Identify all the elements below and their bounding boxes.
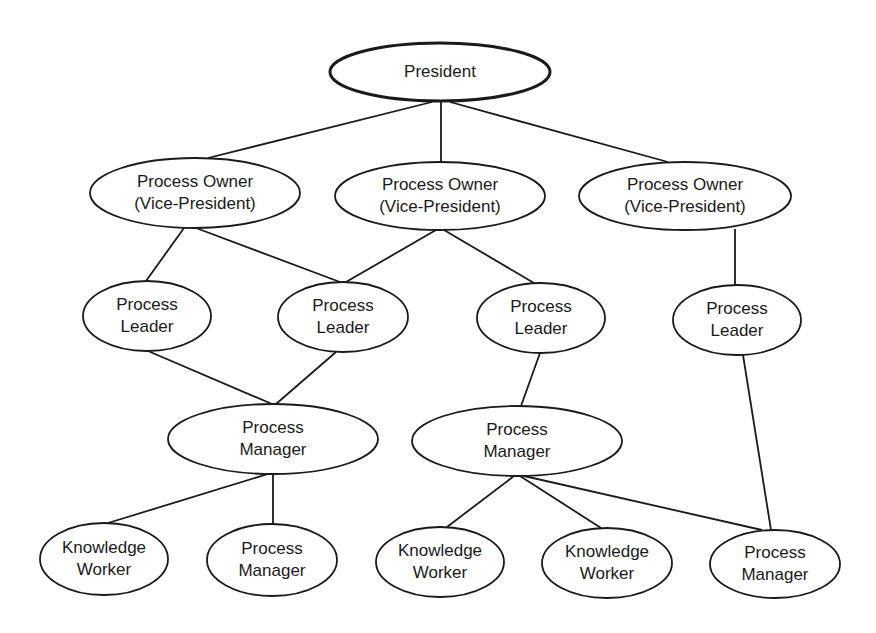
node-po1: Process Owner(Vice-President) [90, 158, 300, 228]
node-label: Process [744, 543, 805, 562]
node-label: Manager [239, 440, 306, 459]
role-nodes: PresidentProcess Owner(Vice-President)Pr… [40, 43, 840, 598]
node-label: Process [486, 420, 547, 439]
connector-pl1-to-pm1 [148, 351, 272, 404]
connector-po1-to-pl2 [196, 228, 340, 282]
node-kw2: KnowledgeWorker [376, 527, 504, 597]
node-label: Process [242, 418, 303, 437]
node-label: Knowledge [62, 538, 146, 557]
node-label: Knowledge [398, 541, 482, 560]
node-label: Process Owner [137, 172, 254, 191]
node-label: Leader [121, 317, 174, 336]
node-label: Worker [580, 564, 635, 583]
ellipse-shape [710, 530, 840, 598]
node-label: Knowledge [565, 542, 649, 561]
connector-pm2-to-pm4 [524, 476, 762, 530]
node-kw1: KnowledgeWorker [40, 523, 168, 595]
ellipse-shape [40, 523, 168, 595]
node-pl4: ProcessLeader [673, 285, 801, 355]
org-chart-diagram: PresidentProcess Owner(Vice-President)Pr… [0, 0, 876, 633]
node-pl3: ProcessLeader [477, 283, 605, 353]
ellipse-shape [335, 162, 545, 230]
node-label: Leader [317, 318, 370, 337]
node-label: Manager [741, 565, 808, 584]
node-label: Process [241, 539, 302, 558]
node-label: Process Owner [382, 175, 499, 194]
connector-pm2-to-kw2 [447, 476, 514, 527]
ellipse-shape [376, 527, 504, 597]
node-label: (Vice-President) [624, 197, 746, 216]
connector-president-to-po3 [450, 102, 668, 162]
node-label: Manager [483, 442, 550, 461]
node-pm1: ProcessManager [168, 404, 378, 474]
node-label: Worker [413, 563, 468, 582]
node-label: President [404, 62, 476, 81]
connector-pl2-to-pm1 [276, 352, 336, 404]
node-po3: Process Owner(Vice-President) [579, 162, 791, 230]
node-label: Worker [77, 560, 132, 579]
node-label: (Vice-President) [379, 197, 501, 216]
ellipse-shape [542, 528, 672, 598]
node-pm3: ProcessManager [207, 524, 337, 596]
ellipse-shape [477, 283, 605, 353]
connector-pm1-to-kw1 [108, 474, 268, 523]
node-label: Process Owner [627, 175, 744, 194]
node-label: Process [706, 299, 767, 318]
ellipse-shape [168, 404, 378, 474]
connector-pl4-to-pm4 [743, 355, 771, 530]
ellipse-shape [83, 281, 211, 351]
node-label: Process [510, 297, 571, 316]
node-pl2: ProcessLeader [278, 282, 408, 352]
node-label: Process [116, 295, 177, 314]
node-pm2: ProcessManager [412, 406, 622, 476]
connector-pl3-to-pm2 [521, 353, 540, 406]
ellipse-shape [412, 406, 622, 476]
ellipse-shape [673, 285, 801, 355]
ellipse-shape [207, 524, 337, 596]
node-pm4: ProcessManager [710, 530, 840, 598]
node-po2: Process Owner(Vice-President) [335, 162, 545, 230]
node-label: Leader [515, 319, 568, 338]
node-president: President [330, 43, 550, 101]
connector-po2-to-pl3 [444, 230, 534, 283]
connector-po1-to-pl1 [146, 228, 184, 281]
node-label: Leader [711, 321, 764, 340]
ellipse-shape [278, 282, 408, 352]
ellipse-shape [90, 158, 300, 228]
connector-president-to-po1 [208, 102, 432, 158]
node-label: Process [312, 296, 373, 315]
ellipse-shape [579, 162, 791, 230]
node-kw3: KnowledgeWorker [542, 528, 672, 598]
node-label: (Vice-President) [134, 194, 256, 213]
connector-po2-to-pl2 [346, 230, 436, 282]
node-label: Manager [238, 561, 305, 580]
node-pl1: ProcessLeader [83, 281, 211, 351]
